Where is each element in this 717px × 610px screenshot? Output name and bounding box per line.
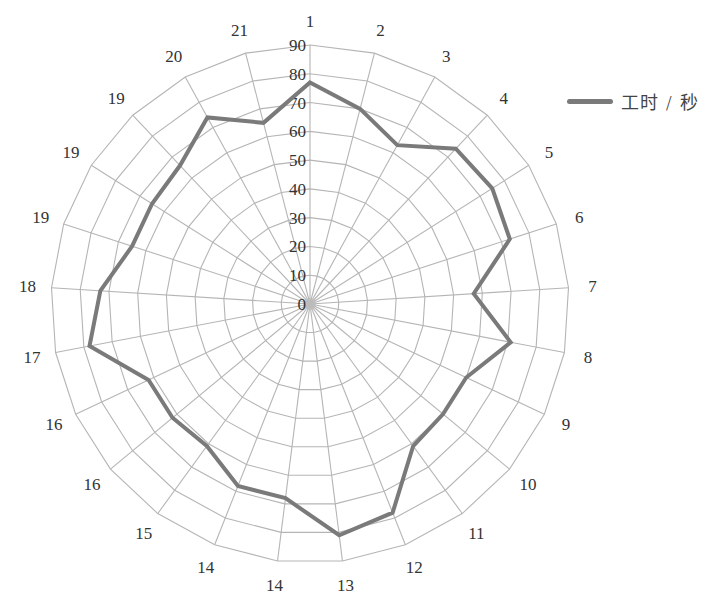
radial-tick-label: 0 — [298, 295, 307, 314]
legend-label: 工时 / 秒 — [621, 88, 699, 114]
grid-spoke — [310, 165, 529, 304]
category-label: 19 — [108, 89, 125, 108]
radial-tick-label: 20 — [289, 237, 306, 256]
radial-tick-label: 30 — [289, 209, 306, 228]
category-label: 19 — [63, 143, 80, 162]
category-label: 19 — [32, 208, 49, 227]
radial-tick-label: 80 — [289, 65, 306, 84]
category-label: 14 — [266, 576, 284, 595]
radial-tick-label: 50 — [289, 151, 306, 170]
radial-tick-label: 60 — [289, 122, 306, 141]
category-label: 9 — [562, 415, 571, 434]
category-label: 7 — [588, 277, 597, 296]
category-label: 16 — [83, 475, 100, 494]
legend-line-swatch-icon — [567, 99, 613, 104]
category-label: 17 — [24, 348, 42, 367]
category-label: 8 — [584, 348, 593, 367]
category-label: 2 — [376, 21, 385, 40]
category-label: 14 — [197, 558, 215, 577]
radial-tick-label: 40 — [289, 180, 306, 199]
grid-spoke — [91, 165, 310, 304]
category-label: 13 — [337, 576, 354, 595]
category-label: 16 — [45, 415, 62, 434]
grid-spoke — [310, 288, 568, 304]
radial-tick-label: 90 — [289, 36, 306, 55]
grid-spoke — [310, 304, 564, 353]
category-label: 18 — [19, 277, 36, 296]
category-label: 20 — [165, 47, 182, 66]
radial-tick-label: 10 — [289, 266, 306, 285]
radar-grid — [52, 45, 569, 561]
category-label: 6 — [575, 208, 584, 227]
category-label: 12 — [406, 558, 423, 577]
category-label: 21 — [231, 21, 248, 40]
radial-axis-ticks: 0102030405060708090 — [289, 36, 306, 314]
grid-spoke — [310, 304, 405, 545]
grid-spoke — [310, 53, 374, 304]
category-label: 5 — [545, 143, 554, 162]
category-label: 15 — [135, 524, 152, 543]
category-label: 3 — [442, 47, 451, 66]
category-label: 4 — [499, 89, 508, 108]
category-label: 1 — [306, 12, 315, 31]
grid-spoke — [52, 288, 310, 304]
category-label: 11 — [468, 524, 484, 543]
chart-legend: 工时 / 秒 — [567, 88, 699, 114]
category-label: 10 — [520, 475, 537, 494]
grid-spoke — [215, 304, 310, 545]
